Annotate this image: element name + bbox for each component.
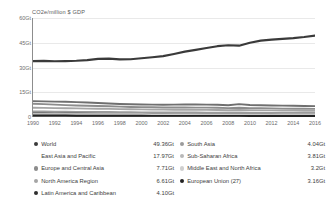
legend-item-label: South Asia [187, 141, 297, 147]
legend-item-value: 6.61Gt [144, 178, 174, 184]
plot-area [33, 18, 315, 117]
legend-color-swatch-icon [34, 191, 38, 195]
y-axis-title: CO2e/million $ GDP [32, 9, 85, 15]
legend-item-label: Sub-Saharan Africa [187, 153, 297, 159]
legend-item-value: 3.16Gt [297, 178, 325, 184]
legend-color-swatch-icon [34, 142, 38, 146]
legend-color-swatch-icon [180, 142, 184, 146]
x-axis-tick-label: 1994 [70, 120, 82, 126]
legend-color-swatch-icon [34, 166, 38, 170]
legend-color-swatch-icon [180, 166, 184, 170]
x-axis-tick-label: 2000 [135, 120, 147, 126]
x-axis-tick-label: 2010 [244, 120, 256, 126]
legend-color-swatch-icon [180, 179, 184, 183]
legend-item-value: 3.81Gt [297, 153, 325, 159]
legend-color-swatch-icon [34, 154, 38, 158]
series-lines [33, 18, 315, 117]
legend-item-label: North America Region [41, 178, 144, 184]
legend-item-label: East Asia and Pacific [41, 153, 144, 159]
x-axis-tick-label: 2006 [201, 120, 213, 126]
legend-item[interactable]: South Asia4.04Gt [180, 138, 325, 150]
legend-item[interactable]: Middle East and North Africa3.2Gt [180, 162, 325, 174]
series-line [33, 112, 315, 113]
x-axis-tick-label: 2012 [266, 120, 278, 126]
legend-item-label: Europe and Central Asia [41, 165, 144, 171]
x-axis-tick-label: 1996 [92, 120, 104, 126]
legend-item-value: 49.36Gt [144, 141, 174, 147]
legend-item[interactable]: Sub-Saharan Africa3.81Gt [180, 150, 325, 162]
x-axis-tick-label: 2008 [222, 120, 234, 126]
legend-item[interactable]: Europe and Central Asia7.71Gt [34, 162, 174, 174]
y-axis-tick-label: 45Gt [19, 40, 31, 46]
legend-item-label: Middle East and North Africa [187, 165, 297, 171]
x-axis-tick-label: 2004 [179, 120, 191, 126]
series-line [33, 36, 315, 62]
gridline [33, 117, 315, 118]
chart-legend: World49.36GtEast Asia and Pacific17.97Gt… [0, 138, 328, 223]
x-axis-tick-label: 2016 [309, 120, 321, 126]
x-axis-tick-label: 1990 [27, 120, 39, 126]
legend-item-value: 4.10Gt [144, 190, 174, 196]
legend-item[interactable]: North America Region6.61Gt [34, 175, 174, 187]
legend-item-label: Latin America and Caribbean [41, 190, 144, 196]
x-axis-tick-label: 2014 [287, 120, 299, 126]
legend-column-left: World49.36GtEast Asia and Pacific17.97Gt… [34, 138, 174, 199]
legend-item[interactable]: World49.36Gt [34, 138, 174, 150]
chart-page: CO2e/million $ GDP 015Gt30Gt45Gt60Gt 199… [0, 0, 328, 223]
legend-color-swatch-icon [34, 179, 38, 183]
legend-item-label: European Union (27) [187, 178, 297, 184]
legend-color-swatch-icon [180, 154, 184, 158]
y-axis-tick-label: 60Gt [19, 15, 31, 21]
x-axis-tick-label: 1992 [49, 120, 61, 126]
chart-container: CO2e/million $ GDP 015Gt30Gt45Gt60Gt 199… [0, 0, 328, 135]
plot-frame [33, 18, 315, 117]
legend-item-value: 4.04Gt [297, 141, 325, 147]
y-axis-tick-label: 30Gt [19, 65, 31, 71]
legend-item-value: 7.71Gt [144, 165, 174, 171]
y-axis-tick-label: 15Gt [19, 89, 31, 95]
legend-item[interactable]: European Union (27)3.16Gt [180, 175, 325, 187]
legend-item-label: World [41, 141, 144, 147]
legend-item-value: 17.97Gt [144, 153, 174, 159]
legend-column-right: South Asia4.04GtSub-Saharan Africa3.81Gt… [180, 138, 325, 187]
legend-item[interactable]: East Asia and Pacific17.97Gt [34, 150, 174, 162]
x-axis-tick-label: 1998 [114, 120, 126, 126]
x-axis-tick-label: 2002 [157, 120, 169, 126]
legend-item[interactable]: Latin America and Caribbean4.10Gt [34, 187, 174, 199]
legend-item-value: 3.2Gt [297, 165, 325, 171]
